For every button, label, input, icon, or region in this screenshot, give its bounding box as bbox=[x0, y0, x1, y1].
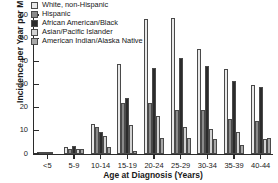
bar-group bbox=[171, 16, 191, 154]
x-axis-title: Age at Diagnosis (Years) bbox=[33, 170, 273, 180]
y-tick-label: 50 bbox=[20, 33, 28, 42]
bar bbox=[187, 138, 191, 154]
legend-swatch-icon bbox=[31, 11, 38, 18]
y-tick-label: 60 bbox=[20, 10, 28, 19]
bar-group bbox=[224, 16, 244, 154]
bar-group bbox=[144, 16, 164, 154]
x-tick-mark bbox=[207, 154, 208, 159]
incidence-bar-chart: Incidence per Year per Million White, no… bbox=[0, 0, 278, 183]
bar bbox=[80, 149, 84, 154]
bar bbox=[213, 139, 217, 154]
y-tick-mark bbox=[34, 130, 39, 131]
bar bbox=[129, 125, 133, 154]
bar bbox=[267, 138, 271, 154]
legend-swatch-icon bbox=[31, 2, 38, 9]
y-tick-mark bbox=[34, 107, 39, 108]
x-tick-mark bbox=[73, 154, 74, 159]
bar-group bbox=[251, 16, 271, 154]
x-tick-label: 40-44 bbox=[235, 161, 278, 170]
y-tick-mark bbox=[34, 84, 39, 85]
x-tick-mark bbox=[100, 154, 101, 159]
legend-swatch-icon bbox=[31, 38, 38, 45]
chart-legend: White, non-HispanicHispanicAfrican Ameri… bbox=[31, 1, 143, 46]
legend-item: American Indian/Alaska Native bbox=[31, 37, 143, 46]
x-tick-mark bbox=[180, 154, 181, 159]
y-tick-label: 0 bbox=[24, 149, 28, 158]
y-tick-label: 10 bbox=[20, 125, 28, 134]
x-tick-mark bbox=[153, 154, 154, 159]
bar-group bbox=[197, 16, 217, 154]
x-tick-mark bbox=[127, 154, 128, 159]
y-tick-mark bbox=[34, 61, 39, 62]
legend-swatch-icon bbox=[31, 29, 38, 36]
bar bbox=[49, 152, 53, 154]
legend-swatch-icon bbox=[31, 20, 38, 27]
legend-label: American Indian/Alaska Native bbox=[42, 37, 143, 46]
x-tick-mark bbox=[47, 154, 48, 159]
x-tick-mark bbox=[233, 154, 234, 159]
y-tick-label: 30 bbox=[20, 79, 28, 88]
y-tick-mark bbox=[34, 153, 39, 154]
bar bbox=[240, 145, 244, 154]
bar bbox=[160, 138, 164, 154]
y-tick-label: 20 bbox=[20, 102, 28, 111]
bar bbox=[133, 151, 137, 154]
y-tick-label: 40 bbox=[20, 56, 28, 65]
bar bbox=[107, 147, 111, 154]
x-tick-mark bbox=[260, 154, 261, 159]
